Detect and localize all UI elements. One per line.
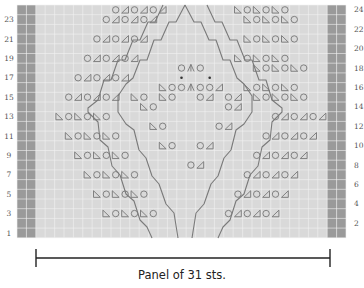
row-number: 10 — [354, 141, 364, 150]
chart-grid — [17, 5, 346, 238]
row-number: 13 — [4, 112, 14, 121]
knitting-chart: 1357911131517192123 24681012141618202224 — [0, 0, 364, 288]
row-number: 15 — [4, 93, 14, 102]
row-number: 12 — [354, 122, 364, 131]
row-number: 24 — [354, 5, 364, 14]
row-number: 1 — [7, 229, 12, 238]
bobble-dot-icon — [180, 76, 183, 79]
row-numbers-right: 24681012141618202224 — [354, 5, 364, 227]
row-number: 18 — [354, 64, 364, 73]
row-number: 20 — [354, 44, 364, 53]
row-number: 22 — [354, 25, 364, 34]
row-numbers-left: 1357911131517192123 — [4, 15, 14, 237]
bobble-dot-icon — [208, 76, 211, 79]
row-number: 3 — [7, 209, 12, 218]
row-number: 2 — [354, 219, 359, 228]
row-number: 7 — [7, 170, 12, 179]
row-number: 4 — [354, 199, 359, 208]
row-number: 6 — [354, 180, 359, 189]
row-number: 16 — [354, 83, 364, 92]
row-number: 9 — [7, 151, 12, 160]
row-number: 14 — [354, 102, 364, 111]
panel-caption: Panel of 31 sts. — [0, 268, 364, 282]
row-number: 23 — [4, 15, 14, 24]
row-number: 11 — [4, 132, 14, 141]
row-number: 19 — [4, 54, 14, 63]
row-number: 21 — [4, 35, 14, 44]
row-number: 8 — [354, 161, 359, 170]
row-number: 5 — [7, 190, 12, 199]
panel-width-bar — [36, 249, 330, 267]
row-number: 17 — [4, 73, 14, 82]
